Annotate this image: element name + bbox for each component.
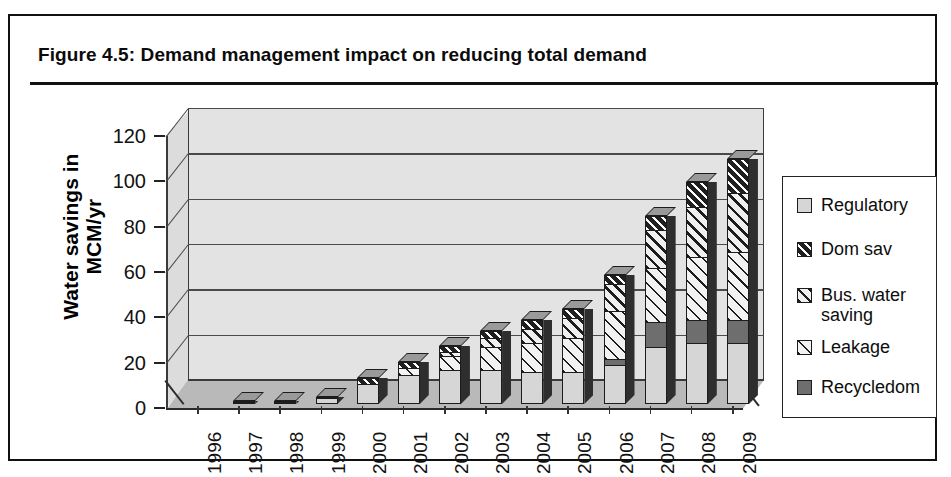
y-axis-tick-100: 100: [113, 170, 146, 193]
bar-segment-2008-bus-water-saving: [686, 207, 708, 257]
solid-dark-gray-swatch: [797, 380, 812, 395]
x-axis-tick-2000: 2000: [369, 432, 391, 474]
bar-top-face-2002: [439, 337, 470, 346]
bar-2004: [521, 320, 543, 404]
bar-top-face-2008: [686, 173, 717, 182]
x-axis-tickmark-2004: [526, 406, 528, 414]
bar-segment-2001-regulatory: [398, 375, 420, 404]
x-axis-tickmark-2003: [485, 406, 487, 414]
bar-segment-1998-regulatory: [274, 402, 296, 404]
bar-segment-2008-recycledom: [686, 320, 708, 343]
chart-legend: RegulatoryDom savBus. water savingLeakag…: [782, 176, 937, 418]
x-axis-tick-2006: 2006: [616, 432, 638, 474]
solid-light-gray-swatch: [797, 198, 812, 213]
bar-segment-2009-dom-sav: [727, 159, 749, 193]
bar-segment-2005-bus-water-saving: [562, 318, 584, 338]
bar-segment-2005-dom-sav: [562, 309, 584, 318]
x-axis-tickmark-2000: [362, 406, 364, 414]
legend-item-leakage[interactable]: Leakage: [797, 337, 890, 357]
bar-segment-2004-bus-water-saving: [521, 329, 543, 343]
bar-segment-2002-regulatory: [439, 370, 461, 404]
y-axis-tickmark-120: [154, 135, 165, 137]
x-axis-tickmark-2008: [691, 406, 693, 414]
bar-top-face-2007: [645, 207, 676, 216]
bar-top-face-1997: [233, 392, 264, 401]
legend-label: Regulatory: [821, 195, 908, 215]
x-axis-tick-2009: 2009: [739, 432, 761, 474]
bar-2008: [686, 182, 708, 404]
bar-segment-2007-bus-water-saving: [645, 230, 667, 269]
bar-segment-2009-bus-water-saving: [727, 193, 749, 252]
bar-side-face-2005: [584, 309, 593, 404]
legend-item-regulatory[interactable]: Regulatory: [797, 195, 908, 215]
y-axis-tickmark-80: [154, 226, 165, 228]
y-axis-tickmark-100: [154, 180, 165, 182]
bar-2007: [645, 216, 667, 404]
bar-segment-2004-regulatory: [521, 372, 543, 404]
bar-side-face-2000: [379, 378, 388, 404]
x-axis-tick-1998: 1998: [286, 432, 308, 474]
x-axis-tick-2002: 2002: [451, 432, 473, 474]
bar-segment-2002-dom-sav: [439, 346, 461, 352]
bar-side-face-1997: [255, 401, 264, 404]
x-axis-tick-2005: 2005: [574, 432, 596, 474]
bar-segment-2001-dom-sav: [398, 362, 420, 368]
y-axis-tick-20: 20: [124, 351, 146, 374]
legend-label: Bus. water saving: [821, 285, 906, 325]
bar-2003: [480, 331, 502, 404]
bar-segment-2009-regulatory: [727, 343, 749, 404]
y-axis-tick-labels: 020406080100120: [90, 94, 152, 404]
bar-top-face-2009: [727, 150, 758, 159]
bar-2000: [357, 378, 379, 404]
x-axis-tickmark-2005: [567, 406, 569, 414]
y-axis-tickmark-20: [154, 362, 165, 364]
bar-side-face-2002: [461, 346, 470, 404]
bar-side-face-2008: [708, 182, 717, 404]
x-axis-tickmark-2007: [650, 406, 652, 414]
y-axis-tickmark-0: [154, 407, 165, 409]
bar-2005: [562, 309, 584, 404]
dark-diagonal-hatch-swatch: [797, 242, 812, 257]
bar-segment-2009-recycledom: [727, 320, 749, 343]
diagonal-hatch-swatch: [797, 288, 812, 303]
y-axis-tickmark-40: [154, 316, 165, 318]
bar-segment-1998-dom-sav: [274, 401, 296, 402]
bar-segment-2003-bus-water-saving: [480, 338, 502, 347]
bar-segment-2003-dom-sav: [480, 331, 502, 338]
bar-segment-2006-leakage: [604, 311, 626, 359]
legend-item-recycledom[interactable]: Recycledom: [797, 377, 920, 397]
bar-segment-2007-regulatory: [645, 347, 667, 404]
bar-side-face-1998: [296, 401, 305, 404]
x-axis-tick-2001: 2001: [410, 432, 432, 474]
bar-segment-2006-recycledom: [604, 359, 626, 366]
bar-series-container: [166, 108, 764, 410]
bar-segment-2004-leakage: [521, 343, 543, 372]
x-axis-tickmark-1996: [197, 406, 199, 414]
bar-top-face-2000: [357, 369, 388, 378]
x-axis-tickmark-1998: [279, 406, 281, 414]
bar-segment-1999-regulatory: [316, 398, 338, 404]
bar-segment-2007-dom-sav: [645, 216, 667, 230]
bar-top-face-2004: [521, 311, 552, 320]
x-axis-tickmark-1999: [321, 406, 323, 414]
bar-1998: [274, 401, 296, 404]
bar-segment-2005-regulatory: [562, 372, 584, 404]
x-axis-tickmark-2009: [732, 406, 734, 414]
bar-top-face-2003: [480, 322, 511, 331]
x-axis-tick-2003: 2003: [492, 432, 514, 474]
legend-item-bus-water-saving[interactable]: Bus. water saving: [797, 285, 906, 325]
bar-2002: [439, 346, 461, 404]
bar-segment-2008-leakage: [686, 257, 708, 320]
y-axis-tick-80: 80: [124, 215, 146, 238]
bar-segment-2009-leakage: [727, 252, 749, 320]
bar-segment-2003-regulatory: [480, 370, 502, 404]
bar-side-face-2009: [749, 159, 758, 404]
bar-segment-2000-dom-sav: [357, 378, 379, 384]
bar-2001: [398, 362, 420, 404]
bar-segment-2006-bus-water-saving: [604, 284, 626, 311]
x-axis-tickmark-2001: [403, 406, 405, 414]
x-axis-tick-labels: 1996199719981999200020012002200320042005…: [166, 412, 766, 477]
legend-item-dom-sav[interactable]: Dom sav: [797, 239, 892, 259]
bar-2006: [604, 275, 626, 404]
